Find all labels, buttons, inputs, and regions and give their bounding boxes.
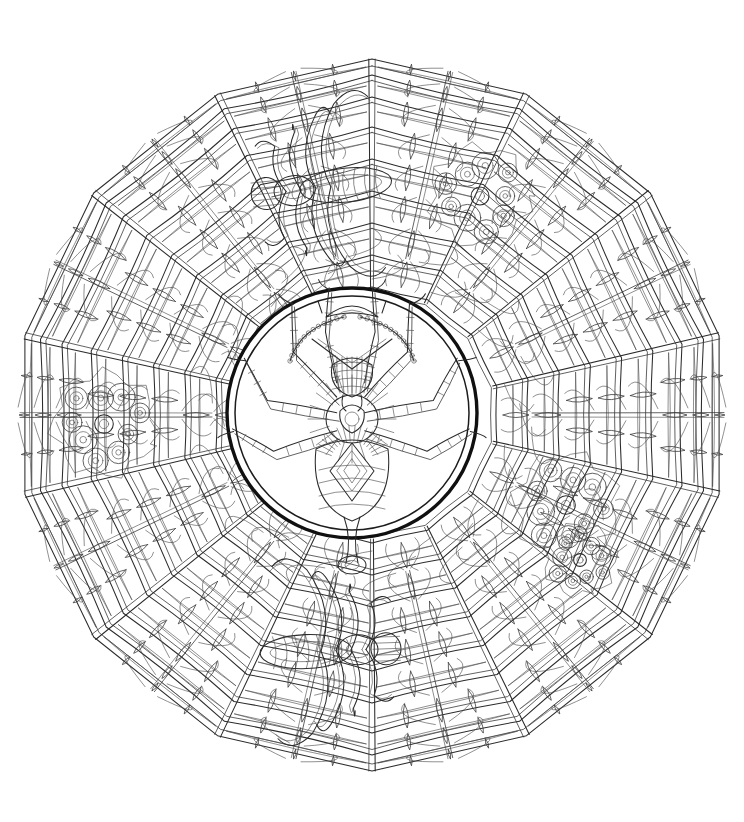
- coloring-page-canvas: [0, 0, 744, 822]
- spider-mandala-artwork: [0, 0, 744, 822]
